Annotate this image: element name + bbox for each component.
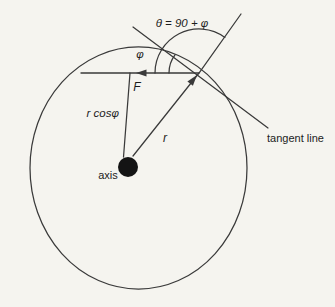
diagram-canvas: θ = 90 + φ φ F r cosφ r axis tangent lin… [0,0,335,307]
radius-arrowhead-icon [187,75,197,86]
phi-label: φ [136,48,144,60]
force-arrowhead-icon [136,70,147,77]
radius-vector [133,14,241,156]
radius-label: r [163,131,168,145]
tangent-line-label: tangent line [267,132,324,144]
axis-label: axis [98,169,118,181]
tangent-line [133,27,268,128]
theta-equation-label: θ = 90 + φ [156,17,209,29]
moment-arm-line [124,73,131,157]
axis-dot [118,157,138,177]
moment-arm-label: r cosφ [87,107,120,119]
physics-figure: θ = 90 + φ φ F r cosφ r axis tangent lin… [0,0,335,307]
force-label: F [133,80,141,94]
